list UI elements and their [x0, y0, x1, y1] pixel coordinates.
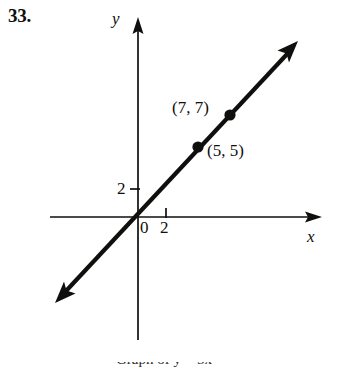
coordinate-plane — [0, 0, 345, 370]
point-label-5-5: (5, 5) — [207, 142, 244, 159]
x-axis-label: x — [307, 228, 315, 245]
problem-number: 33. — [8, 6, 31, 25]
y-axis-tick-label-2: 2 — [117, 180, 126, 197]
cropped-caption-text: Graph of y = 5x — [116, 362, 212, 368]
data-point-5-5 — [192, 141, 203, 152]
x-axis-tick-label-2: 2 — [160, 219, 169, 236]
graph-figure: 33. y x 2 0 2 (7, 7) (5, 5) Graph of y =… — [0, 0, 345, 370]
cropped-caption-strip: Graph of y = 5x — [0, 362, 345, 370]
origin-label: 0 — [140, 219, 149, 236]
line-y-equals-x — [66, 52, 289, 291]
point-label-7-7: (7, 7) — [172, 99, 209, 116]
data-point-7-7 — [224, 109, 235, 120]
y-axis-label: y — [112, 10, 120, 27]
